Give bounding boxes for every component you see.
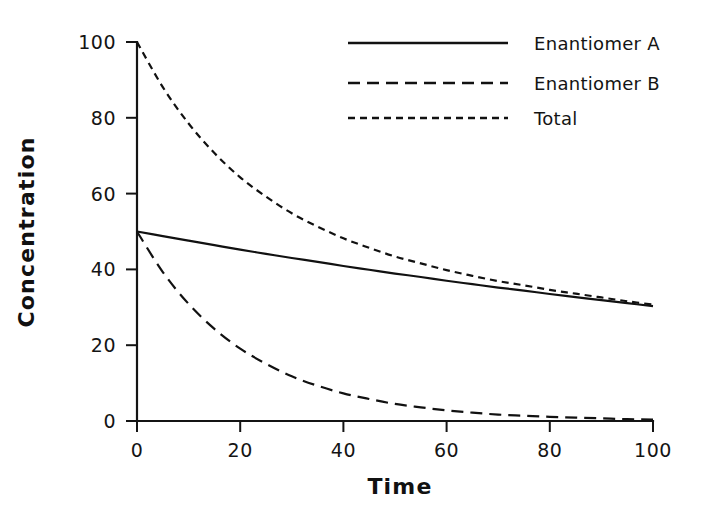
legend-label-total: Total xyxy=(533,108,578,129)
chart-container: 020406080100 020406080100 Time Concentra… xyxy=(0,0,705,525)
x-tick-label: 40 xyxy=(331,439,356,461)
x-tick-label: 80 xyxy=(537,439,562,461)
y-axis-title: Concentration xyxy=(14,136,39,327)
y-tick-label: 60 xyxy=(91,183,116,205)
x-tick-label: 100 xyxy=(634,439,672,461)
y-tick-label: 0 xyxy=(103,410,116,432)
y-tick-label: 20 xyxy=(91,334,116,356)
concentration-vs-time-chart: 020406080100 020406080100 Time Concentra… xyxy=(0,0,705,525)
x-tick-label: 60 xyxy=(434,439,459,461)
x-tick-label: 20 xyxy=(228,439,253,461)
y-tick-label: 80 xyxy=(91,107,116,129)
x-tick-label: 0 xyxy=(131,439,144,461)
y-tick-label: 100 xyxy=(78,31,116,53)
legend-label-enantiomer-b: Enantiomer B xyxy=(534,73,660,94)
legend-label-enantiomer-a: Enantiomer A xyxy=(534,33,660,54)
y-tick-label: 40 xyxy=(91,258,116,280)
x-axis-title: Time xyxy=(367,474,432,499)
